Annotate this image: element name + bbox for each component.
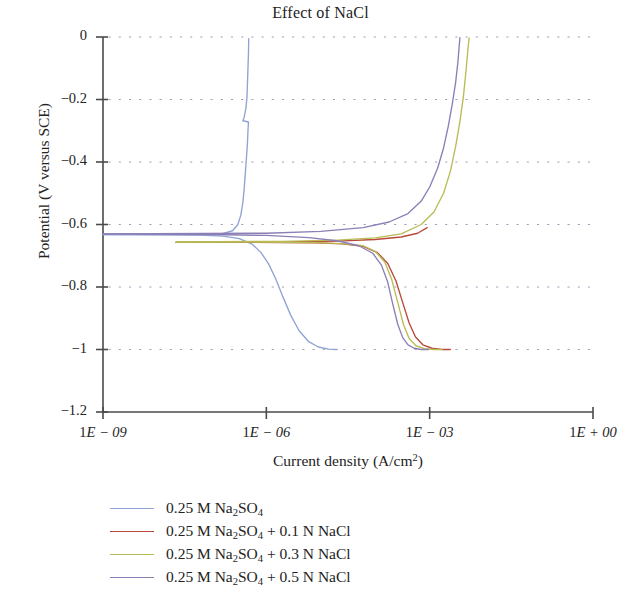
curve-cathodic	[103, 234, 428, 350]
curve-cathodic	[176, 242, 450, 349]
legend-item-label: 0.25 M Na2SO4 + 0.1 N NaCl	[166, 522, 351, 541]
legend-item-label: 0.25 M Na2SO4 + 0.3 N NaCl	[166, 545, 351, 564]
y-tick-label: −1.2	[23, 402, 87, 419]
curve-anodic	[103, 38, 460, 234]
legend-color-swatch	[110, 508, 154, 509]
curve-anodic	[176, 38, 469, 242]
legend-color-swatch	[110, 554, 154, 555]
curve-anodic	[103, 39, 249, 235]
legend-item-label: 0.25 M Na2SO4	[166, 499, 263, 518]
legend-color-swatch	[110, 531, 154, 532]
gridlines	[109, 37, 593, 350]
x-tick-label: 1E − 06	[211, 424, 321, 441]
x-tick-label: 1E + 00	[538, 424, 641, 441]
legend-item: 0.25 M Na2SO4 + 0.5 N NaCl	[110, 566, 540, 589]
axis-lines	[103, 37, 593, 412]
y-tick-label: −1	[23, 340, 87, 357]
x-axis-label: Current density (A/cm2)	[103, 452, 593, 470]
legend-item: 0.25 M Na2SO4 + 0.1 N NaCl	[110, 520, 540, 543]
chart-figure: Effect of NaCl Potential (V versus SCE) …	[0, 0, 641, 599]
legend-item-label: 0.25 M Na2SO4 + 0.5 N NaCl	[166, 568, 351, 587]
chart-legend: 0.25 M Na2SO40.25 M Na2SO4 + 0.1 N NaCl0…	[110, 497, 540, 589]
legend-color-swatch	[110, 577, 154, 578]
y-tick-label: −0.6	[23, 215, 87, 232]
y-tick-label: −0.8	[23, 277, 87, 294]
y-tick-label: 0	[23, 27, 87, 44]
x-tick-label: 1E − 09	[48, 424, 158, 441]
x-tick-label: 1E − 03	[375, 424, 485, 441]
y-tick-label: −0.4	[23, 152, 87, 169]
y-tick-label: −0.2	[23, 90, 87, 107]
data-curves	[103, 38, 469, 350]
legend-item: 0.25 M Na2SO4	[110, 497, 540, 520]
legend-item: 0.25 M Na2SO4 + 0.3 N NaCl	[110, 543, 540, 566]
curve-cathodic	[103, 235, 337, 350]
x-tick-marks	[103, 407, 593, 419]
y-tick-marks	[96, 37, 108, 412]
curve-cathodic	[176, 242, 442, 350]
